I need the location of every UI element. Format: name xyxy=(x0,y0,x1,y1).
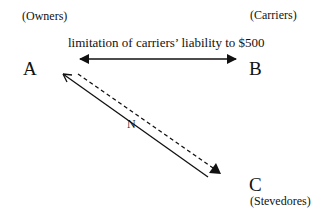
node-c: C xyxy=(249,174,262,196)
node-b: B xyxy=(249,58,262,80)
diagram-canvas xyxy=(0,0,330,216)
stevedores-label: (Stevedores) xyxy=(250,194,311,209)
edge-n-label: N xyxy=(127,117,136,132)
owners-label: (Owners) xyxy=(22,9,67,24)
liability-limit-label: limitation of carriers’ liability to $50… xyxy=(68,35,265,51)
node-a: A xyxy=(23,58,37,80)
carriers-label: (Carriers) xyxy=(250,8,297,23)
arrow-a-to-c-dashed xyxy=(78,74,221,174)
